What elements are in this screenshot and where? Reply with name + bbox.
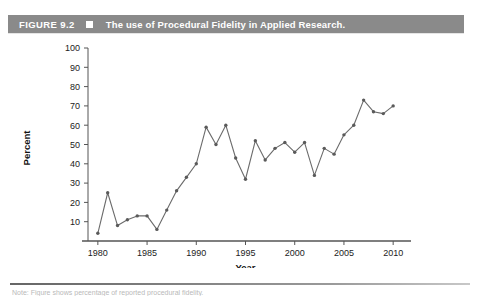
data-point xyxy=(195,162,198,165)
data-point xyxy=(106,191,109,194)
x-axis-ticks: 1980198519901995200020052010 xyxy=(88,241,403,258)
x-tick-label: 2000 xyxy=(285,248,305,258)
y-tick-label: 60 xyxy=(70,121,80,131)
data-point xyxy=(342,133,345,136)
data-point xyxy=(155,228,158,231)
data-point xyxy=(372,110,375,113)
y-tick-label: 50 xyxy=(70,140,80,150)
y-tick-label: 40 xyxy=(70,159,80,169)
chart-area: 102030405060708090100 198019851990199520… xyxy=(0,33,491,268)
y-tick-label: 70 xyxy=(70,101,80,111)
x-axis-title: Year xyxy=(235,262,255,268)
data-point xyxy=(175,189,178,192)
data-point xyxy=(352,124,355,127)
figure-title: The use of Procedural Fidelity in Applie… xyxy=(106,19,346,30)
y-tick-label: 100 xyxy=(65,43,80,53)
y-tick-label: 10 xyxy=(70,217,80,227)
data-point xyxy=(224,124,227,127)
data-point xyxy=(136,214,139,217)
data-point xyxy=(323,147,326,150)
x-tick-label: 1980 xyxy=(88,248,108,258)
data-point xyxy=(234,156,237,159)
filled-square-icon xyxy=(86,21,93,28)
data-point xyxy=(293,151,296,154)
data-point xyxy=(313,174,316,177)
data-point xyxy=(391,104,394,107)
y-tick-label: 90 xyxy=(70,63,80,73)
data-point xyxy=(96,232,99,235)
footer-note: Note: Figure shows percentage of reporte… xyxy=(12,288,482,296)
data-point xyxy=(273,147,276,150)
y-axis-ticks: 102030405060708090100 xyxy=(65,43,88,227)
data-point xyxy=(126,218,129,221)
data-point xyxy=(283,141,286,144)
data-point xyxy=(116,224,119,227)
y-tick-label: 20 xyxy=(70,198,80,208)
data-point xyxy=(263,158,266,161)
data-point xyxy=(214,143,217,146)
data-point-markers xyxy=(96,98,395,235)
data-point xyxy=(254,139,257,142)
x-tick-label: 2010 xyxy=(383,248,403,258)
data-series-line xyxy=(98,100,393,233)
x-tick-label: 2005 xyxy=(334,248,354,258)
y-tick-label: 80 xyxy=(70,82,80,92)
data-point xyxy=(332,152,335,155)
line-chart: 102030405060708090100 198019851990199520… xyxy=(0,33,491,268)
data-point xyxy=(362,98,365,101)
y-tick-label: 30 xyxy=(70,178,80,188)
footer-divider xyxy=(10,283,470,285)
data-point xyxy=(145,214,148,217)
figure-caption-bar: FIGURE 9.2 The use of Procedural Fidelit… xyxy=(8,15,464,33)
figure-container: FIGURE 9.2 The use of Procedural Fidelit… xyxy=(0,0,491,297)
x-tick-label: 1995 xyxy=(235,248,255,258)
data-point xyxy=(185,176,188,179)
figure-number-label: FIGURE 9.2 xyxy=(19,19,75,30)
data-point xyxy=(204,125,207,128)
y-axis-title: Percent xyxy=(21,130,32,166)
data-point xyxy=(382,112,385,115)
data-point xyxy=(303,141,306,144)
data-point xyxy=(165,208,168,211)
x-tick-label: 1985 xyxy=(137,248,157,258)
data-point xyxy=(244,178,247,181)
x-tick-label: 1990 xyxy=(186,248,206,258)
